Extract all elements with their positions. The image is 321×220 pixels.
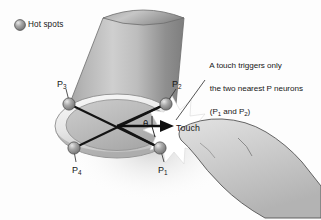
annotation-line3-sub1: 1 bbox=[218, 110, 221, 117]
hot-spot-label-p4: P4 bbox=[72, 165, 82, 177]
hot-spot-p2[interactable] bbox=[160, 98, 172, 110]
sphere-icon bbox=[15, 20, 26, 31]
label-p2-sub: 2 bbox=[178, 83, 182, 90]
label-p4-sub: 4 bbox=[78, 169, 82, 176]
annotation-line3-sub2: 2 bbox=[244, 110, 247, 117]
legend-label: Hot spots bbox=[28, 20, 64, 31]
hot-spot-p1[interactable] bbox=[154, 142, 166, 154]
annotation-text: A touch triggers only the two nearest P … bbox=[201, 48, 303, 129]
annotation-line-2: the two nearest P neurons bbox=[210, 84, 303, 93]
hot-spot-p4[interactable] bbox=[68, 142, 80, 154]
annotation-line3-prefix: (P bbox=[210, 107, 218, 116]
label-p3-sub: 3 bbox=[63, 83, 67, 90]
annotation-line3-mid: and P bbox=[221, 107, 244, 116]
touch-label: Touch bbox=[176, 123, 200, 134]
hot-spot-label-p3: P3 bbox=[57, 79, 67, 91]
theta-angle-label: θ bbox=[143, 119, 148, 130]
hot-spot-label-p1: P1 bbox=[158, 165, 168, 177]
annotation-line-1: A touch triggers only bbox=[209, 61, 281, 70]
hot-spot-p3[interactable] bbox=[63, 98, 75, 110]
label-p1-sub: 1 bbox=[164, 169, 168, 176]
annotation-line-3: (P1 and P2) bbox=[210, 107, 250, 116]
figure-leech-touch-diagram: Hot spots A touch triggers only the two … bbox=[0, 0, 321, 220]
hot-spot-label-p2: P2 bbox=[172, 79, 182, 91]
